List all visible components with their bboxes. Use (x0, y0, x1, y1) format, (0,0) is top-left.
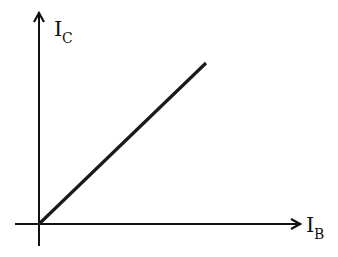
ic-ib-characteristic-diagram: I C I B (0, 0, 338, 257)
y-axis-label: I C (54, 17, 73, 46)
svg-text:B: B (314, 226, 324, 242)
x-axis-label: I B (306, 213, 324, 242)
characteristic-line (39, 63, 206, 224)
svg-text:C: C (62, 30, 73, 46)
